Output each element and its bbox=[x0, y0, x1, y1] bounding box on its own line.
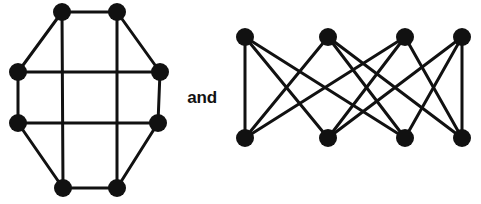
graph-vertex bbox=[149, 114, 167, 132]
graph-edge bbox=[62, 12, 63, 188]
graph-vertex bbox=[453, 28, 471, 46]
conjunction-label: and bbox=[178, 88, 226, 108]
graph-vertex bbox=[151, 63, 169, 81]
graph-vertex bbox=[453, 129, 471, 147]
graph-vertex bbox=[53, 3, 71, 21]
graph-vertex bbox=[319, 129, 337, 147]
graph-vertex bbox=[236, 28, 254, 46]
graph-vertex bbox=[54, 179, 72, 197]
graph-vertex bbox=[396, 28, 414, 46]
graph-vertex bbox=[236, 129, 254, 147]
graph-figure bbox=[0, 0, 481, 204]
graph-vertex bbox=[396, 129, 414, 147]
graph-vertex bbox=[319, 28, 337, 46]
graph-vertex bbox=[9, 63, 27, 81]
graph-vertex bbox=[108, 3, 126, 21]
graph-vertex bbox=[9, 114, 27, 132]
graph-vertex bbox=[108, 179, 126, 197]
